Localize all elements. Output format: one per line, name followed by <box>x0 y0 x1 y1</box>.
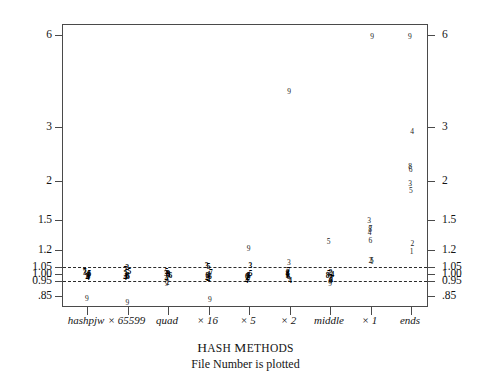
y-tick-left <box>55 281 63 282</box>
y-tick-label-right: 0.95 <box>442 274 462 286</box>
y-tick-right <box>427 220 435 221</box>
x-tick-label-1: × 1 <box>362 314 378 326</box>
plot-frame: 7358162492753816495381674293571862499358… <box>62 24 428 307</box>
y-tick-left <box>55 220 63 221</box>
y-axis-left-labels: 6321.51.21.051.000.95.85 <box>10 24 52 307</box>
data-point: 5 <box>409 187 413 195</box>
y-tick-label-left: 0.95 <box>32 274 52 286</box>
y-tick-label-left: 2 <box>46 174 52 186</box>
y-tick-left <box>55 127 63 128</box>
y-tick-label-right: 1.2 <box>442 243 456 255</box>
x-tick-label-ends: ends <box>400 314 420 326</box>
y-tick-label-left: .85 <box>38 289 52 301</box>
y-tick-left <box>55 296 63 297</box>
chart-page: 6321.51.21.051.000.95.85 735816249275381… <box>0 0 491 387</box>
y-tick-right <box>427 267 435 268</box>
data-point: 6 <box>409 166 413 174</box>
y-tick-label-left: 1.2 <box>38 243 52 255</box>
y-tick-label-right: 2 <box>442 174 448 186</box>
data-point: 6 <box>369 237 373 245</box>
x-tick-label-65599: × 65599 <box>108 314 146 326</box>
data-point: 5 <box>327 238 331 246</box>
y-tick-label-left: 6 <box>46 28 52 40</box>
x-tick-label-hashpjw: hashpjw <box>68 314 105 326</box>
data-point: 4 <box>245 277 249 285</box>
y-tick-left <box>55 250 63 251</box>
y-tick-label-right: 3 <box>442 120 448 132</box>
reference-line-1.05 <box>63 267 427 268</box>
x-axis-labels: hashpjw× 65599quad× 16× 5× 2middle× 1end… <box>62 314 428 336</box>
data-point: 9 <box>165 280 169 288</box>
x-tick-label-2: × 2 <box>281 314 297 326</box>
data-point: 1 <box>410 249 414 257</box>
axis-title-ash: ASH <box>207 342 234 354</box>
data-point: 4 <box>207 276 211 284</box>
y-tick-left <box>55 35 63 36</box>
y-tick-right <box>427 181 435 182</box>
axis-title-cap-m: M <box>234 340 246 355</box>
y-tick-label-left: 3 <box>46 120 52 132</box>
axis-title: HASH METHODS <box>0 340 491 356</box>
data-point: 4 <box>288 277 292 285</box>
data-point: 4 <box>123 275 127 283</box>
axis-title-cap-h: H <box>197 340 207 355</box>
x-tick-label-quad: quad <box>156 314 178 326</box>
y-tick-right <box>427 127 435 128</box>
y-tick-label-left: 1.5 <box>38 213 52 225</box>
y-tick-label-right: .85 <box>442 289 456 301</box>
data-point: 9 <box>408 33 412 41</box>
y-tick-right <box>427 296 435 297</box>
y-tick-left <box>55 267 63 268</box>
y-tick-left <box>55 274 63 275</box>
data-point: 9 <box>287 88 291 96</box>
data-point: 1 <box>370 258 374 266</box>
axis-title-ethods: ETHODS <box>247 342 294 354</box>
y-tick-right <box>427 250 435 251</box>
x-tick-label-16: × 16 <box>197 314 218 326</box>
data-point: 9 <box>208 296 212 304</box>
y-axis-right-labels: 6321.51.21.051.000.95.85 <box>442 24 486 307</box>
data-point: 4 <box>86 274 90 282</box>
data-point: 9 <box>125 300 129 308</box>
x-tick-label-5: × 5 <box>240 314 256 326</box>
y-tick-right <box>427 274 435 275</box>
y-tick-right <box>427 35 435 36</box>
x-tick-label-middle: middle <box>314 314 344 326</box>
y-tick-right <box>427 281 435 282</box>
data-point: 9 <box>85 295 89 303</box>
data-point: 9 <box>247 245 251 253</box>
axis-subtitle: File Number is plotted <box>0 357 491 372</box>
data-point: 3 <box>249 262 253 270</box>
data-point: 4 <box>410 128 414 136</box>
data-point: 9 <box>370 33 374 41</box>
data-point: 9 <box>328 280 332 288</box>
y-tick-left <box>55 181 63 182</box>
y-tick-label-right: 1.5 <box>442 213 456 225</box>
y-tick-label-right: 6 <box>442 28 448 40</box>
